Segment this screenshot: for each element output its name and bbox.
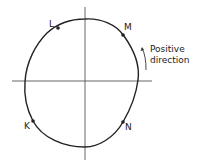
point-M-label: M — [124, 23, 132, 32]
point-L-label: L — [49, 20, 54, 29]
closed-curve — [25, 19, 139, 147]
point-M-marker — [121, 33, 125, 37]
note-line-2: direction — [150, 55, 189, 66]
point-K-marker — [31, 119, 35, 123]
positive-direction-note: Positive direction — [150, 44, 189, 66]
point-L-marker — [56, 26, 60, 30]
note-line-1: Positive — [150, 44, 189, 55]
diagram-svg — [0, 0, 198, 166]
diagram-canvas: L M N K Positive direction — [0, 0, 198, 166]
point-K-label: K — [24, 122, 30, 131]
point-N-label: N — [125, 123, 132, 132]
positive-direction-arrow — [142, 48, 146, 70]
